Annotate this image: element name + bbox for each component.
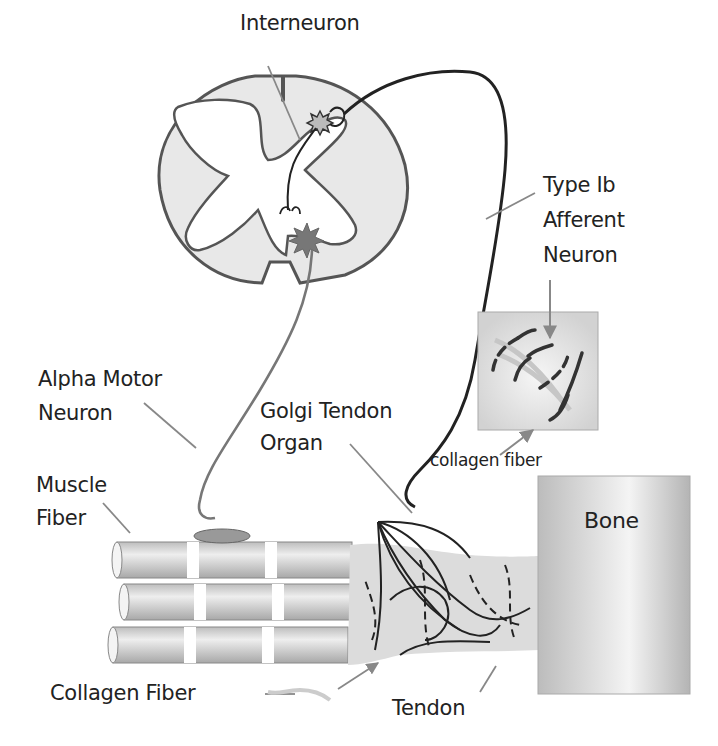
- label-collagen-fiber: Collagen Fiber: [50, 680, 195, 706]
- label-type-ib-line3: Neuron: [543, 242, 617, 268]
- label-golgi-line1: Golgi Tendon: [260, 398, 392, 424]
- muscle-fiber-2: [119, 584, 359, 620]
- label-type-ib-line2: Afferent: [543, 207, 625, 233]
- muscle-fiber-3: [108, 627, 348, 663]
- tendon: [348, 544, 540, 665]
- muscle-fibers: [108, 529, 359, 663]
- label-bone: Bone: [584, 508, 639, 534]
- label-muscle-line1: Muscle: [36, 472, 107, 498]
- alpha-motor-neuron-axon: [199, 250, 312, 518]
- interneuron-cell: [307, 111, 333, 135]
- label-alpha-motor-line1: Alpha Motor: [38, 366, 162, 392]
- spinal-cord: [159, 76, 408, 283]
- inset-collagen-box: [478, 280, 598, 455]
- reflex-diagram: Interneuron Type Ib Afferent Neuron Alph…: [0, 0, 718, 746]
- motor-neuron-cell: [289, 223, 324, 258]
- label-type-ib-line1: Type Ib: [543, 172, 615, 198]
- label-alpha-motor-line2: Neuron: [38, 400, 112, 426]
- label-collagen-fiber-inset: collagen fiber: [430, 447, 542, 473]
- muscle-fiber-1: [112, 542, 352, 578]
- label-tendon: Tendon: [392, 695, 465, 721]
- neuromuscular-junction: [194, 529, 250, 543]
- label-interneuron: Interneuron: [240, 10, 360, 36]
- label-muscle-line2: Fiber: [36, 505, 86, 531]
- label-golgi-line2: Organ: [260, 430, 323, 456]
